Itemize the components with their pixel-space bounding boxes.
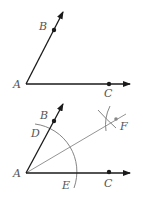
label-d: D [30,127,40,140]
label-c: C [104,177,113,190]
arc-intersect-2 [106,106,111,131]
point-f [114,117,118,121]
label-a: A [12,78,21,91]
point-b [52,119,56,123]
angle-bisector-diagram: A B C A B C D E F [0,0,143,200]
point-c [107,82,111,86]
arc-de [35,124,77,188]
point-c [107,170,111,174]
label-f: F [119,120,128,133]
label-c: C [104,87,113,100]
figure-bisector-construction: A B C D E F [12,104,130,192]
label-b: B [38,20,47,33]
label-b: B [39,109,48,122]
figure-angle: A B C [12,12,130,100]
label-a: A [12,167,21,180]
label-e: E [61,179,70,192]
point-b [52,28,56,32]
